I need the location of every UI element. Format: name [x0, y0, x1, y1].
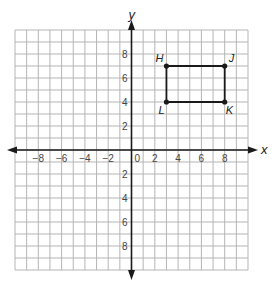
point-l — [164, 99, 169, 104]
x-tick-label: 4 — [175, 153, 181, 164]
rectangle-outline — [166, 66, 224, 102]
x-tick-label: −4 — [79, 153, 91, 164]
x-tick-label: 2 — [152, 153, 158, 164]
point-label-h: H — [155, 52, 163, 64]
point-j — [222, 63, 227, 68]
x-tick-label: −2 — [102, 153, 114, 164]
x-axis-left-arrow-icon — [7, 147, 17, 154]
y-tick-label: 4 — [122, 97, 128, 108]
x-axis-label: x — [260, 142, 268, 157]
x-tick-label: 0 — [135, 153, 141, 164]
y-tick-label: 2 — [122, 169, 128, 180]
x-tick-label: −6 — [56, 153, 68, 164]
y-tick-label: 8 — [122, 49, 128, 60]
y-tick-label: 6 — [122, 217, 128, 228]
x-axis-right-arrow-icon — [248, 147, 258, 154]
point-label-j: J — [228, 52, 235, 64]
axes: xy — [7, 7, 268, 280]
y-tick-label: 6 — [122, 73, 128, 84]
y-tick-label: 2 — [122, 121, 128, 132]
point-label-l: L — [158, 104, 164, 116]
y-axis-down-arrow-icon — [128, 270, 135, 280]
coordinate-plane: xy −8−6−4−20246886422468 HJKL — [0, 0, 278, 283]
y-tick-label: 4 — [122, 193, 128, 204]
point-h — [164, 63, 169, 68]
x-tick-label: −8 — [33, 153, 45, 164]
rectangle-hjkl: HJKL — [155, 52, 234, 116]
y-axis-label: y — [128, 7, 137, 22]
x-tick-label: 8 — [222, 153, 228, 164]
point-label-k: K — [226, 104, 234, 116]
y-tick-label: 8 — [122, 241, 128, 252]
x-tick-label: 6 — [199, 153, 205, 164]
